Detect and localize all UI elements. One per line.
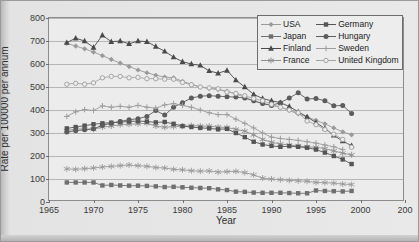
x-axis-label: Year <box>48 215 404 226</box>
x-tick-label: 200 <box>397 205 412 215</box>
x-tick-label: 1990 <box>261 205 281 215</box>
x-tick-label: 1995 <box>306 205 326 215</box>
legend-marker-square-icon <box>261 32 281 41</box>
legend-item-sweden[interactable]: Sweden <box>316 43 400 54</box>
legend-item-hungary[interactable]: Hungary <box>316 31 400 42</box>
legend-item-germany[interactable]: Germany <box>316 19 400 30</box>
y-tick-label: 500 <box>30 82 45 92</box>
y-tick-label: 300 <box>30 128 45 138</box>
legend-label: USA <box>283 19 300 30</box>
legend-marker-open-circle-icon <box>316 56 336 65</box>
x-tick-label: 1965 <box>39 205 59 215</box>
legend-marker-diamond-icon <box>261 20 281 29</box>
legend-marker-star-icon <box>261 56 281 65</box>
x-tick-label: 2000 <box>350 205 370 215</box>
legend-item-finland[interactable]: Finland <box>261 43 312 54</box>
series-japan <box>65 180 354 195</box>
legend-item-japan[interactable]: Japan <box>261 31 312 42</box>
y-tick-label: 100 <box>30 174 45 184</box>
y-tick-label: 700 <box>30 36 45 46</box>
series-sweden-low <box>64 162 355 188</box>
legend-label: Hungary <box>338 31 370 42</box>
x-tick-mark <box>405 200 406 203</box>
x-tick-label: 1970 <box>83 205 103 215</box>
y-tick-label: 800 <box>30 13 45 23</box>
legend-label: Japan <box>283 31 306 42</box>
legend-label: United Kingdom <box>338 55 398 66</box>
y-axis-label: Rate per 100000 per annum <box>0 17 13 201</box>
legend-label: Sweden <box>338 43 369 54</box>
legend-marker-triangle-icon <box>261 44 281 53</box>
legend-item-united-kingdom[interactable]: United Kingdom <box>316 55 400 66</box>
legend-label: Germany <box>338 19 373 30</box>
chart-legend: USAGermanyJapanHungaryFinlandSwedenFranc… <box>257 15 403 70</box>
chart-image: Rate per 100000 per annum 01002003004005… <box>0 0 419 242</box>
legend-label: France <box>283 55 309 66</box>
x-tick-label: 1980 <box>172 205 192 215</box>
y-tick-label: 200 <box>30 151 45 161</box>
legend-item-france[interactable]: France <box>261 55 312 66</box>
legend-label: Finland <box>283 43 311 54</box>
x-tick-label: 1985 <box>217 205 237 215</box>
series-france <box>64 120 355 158</box>
x-tick-label: 1975 <box>128 205 148 215</box>
legend-marker-circle-icon <box>316 32 336 41</box>
legend-marker-square-icon <box>316 20 336 29</box>
y-tick-label: 600 <box>30 59 45 69</box>
y-tick-label: 400 <box>30 105 45 115</box>
legend-marker-plus-icon <box>316 44 336 53</box>
legend-item-usa[interactable]: USA <box>261 19 312 30</box>
